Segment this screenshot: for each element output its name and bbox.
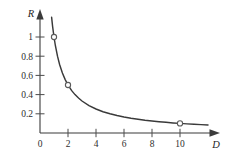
x-tick-label-4: 4 bbox=[94, 139, 99, 149]
data-point-marker-3 bbox=[177, 121, 182, 126]
x-tick-label-6: 6 bbox=[122, 139, 127, 149]
y-tick-label-0.6: 0.6 bbox=[21, 71, 33, 81]
y-axis-tick-labels: 0.2 0.4 0.6 0.8 1 bbox=[21, 32, 33, 119]
y-tick-label-0.8: 0.8 bbox=[21, 52, 33, 62]
x-axis-arrow-icon bbox=[210, 129, 221, 136]
y-axis-arrow-icon bbox=[36, 9, 43, 20]
y-tick-label-0.4: 0.4 bbox=[21, 90, 33, 100]
y-tick-label-0.2: 0.2 bbox=[21, 109, 33, 119]
x-tick-label-10: 10 bbox=[175, 139, 185, 149]
chart-plot-area: 0.2 0.4 0.6 0.8 1 0 2 4 6 8 10 R D bbox=[0, 0, 234, 165]
y-axis-title: R bbox=[27, 8, 35, 19]
data-point-marker-1 bbox=[51, 34, 56, 39]
data-point-marker-2 bbox=[65, 82, 70, 87]
x-tick-label-2: 2 bbox=[66, 139, 71, 149]
x-axis-title: D bbox=[211, 139, 220, 150]
x-axis-tick-labels: 0 2 4 6 8 10 bbox=[38, 139, 185, 149]
curve-markers bbox=[51, 34, 182, 126]
y-tick-label-1: 1 bbox=[28, 32, 33, 42]
curve-r-equals-one-over-d-main bbox=[52, 17, 208, 125]
caption-sliver bbox=[0, 158, 234, 165]
chart-figure: 0.2 0.4 0.6 0.8 1 0 2 4 6 8 10 R D bbox=[0, 0, 234, 165]
x-tick-label-8: 8 bbox=[150, 139, 155, 149]
x-tick-label-0: 0 bbox=[38, 139, 43, 149]
